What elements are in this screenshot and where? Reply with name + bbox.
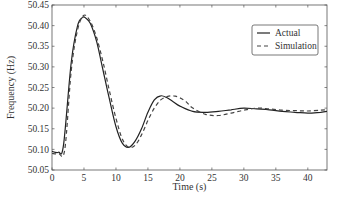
x-tick-label: 5 <box>82 173 87 183</box>
y-tick-label: 50.05 <box>28 165 50 175</box>
y-tick-label: 50.20 <box>28 103 50 113</box>
legend-label-simulation: Simulation <box>275 41 317 51</box>
x-tick-label: 30 <box>239 173 249 183</box>
x-tick-label: 15 <box>143 173 153 183</box>
x-tick-label: 35 <box>271 173 281 183</box>
x-tick-label: 25 <box>207 173 217 183</box>
y-tick-label: 50.10 <box>28 145 50 155</box>
y-tick-label: 50.25 <box>28 83 50 93</box>
x-tick-label: 0 <box>50 173 55 183</box>
frequency-chart: 0510152025303540 50.0550.1050.1550.2050.… <box>0 0 345 202</box>
x-tick-label: 10 <box>111 173 121 183</box>
x-axis-label: Time (s) <box>173 181 207 193</box>
y-tick-label: 50.35 <box>28 41 50 51</box>
y-axis-label: Frequency (Hz) <box>5 56 17 119</box>
y-tick-label: 50.40 <box>28 21 50 31</box>
y-tick-label: 50.15 <box>28 124 50 134</box>
legend-label-actual: Actual <box>275 28 301 38</box>
y-tick-label: 50.30 <box>28 62 50 72</box>
x-tick-label: 40 <box>303 173 313 183</box>
legend: Actual Simulation <box>252 25 318 55</box>
y-tick-label: 50.45 <box>28 0 50 10</box>
